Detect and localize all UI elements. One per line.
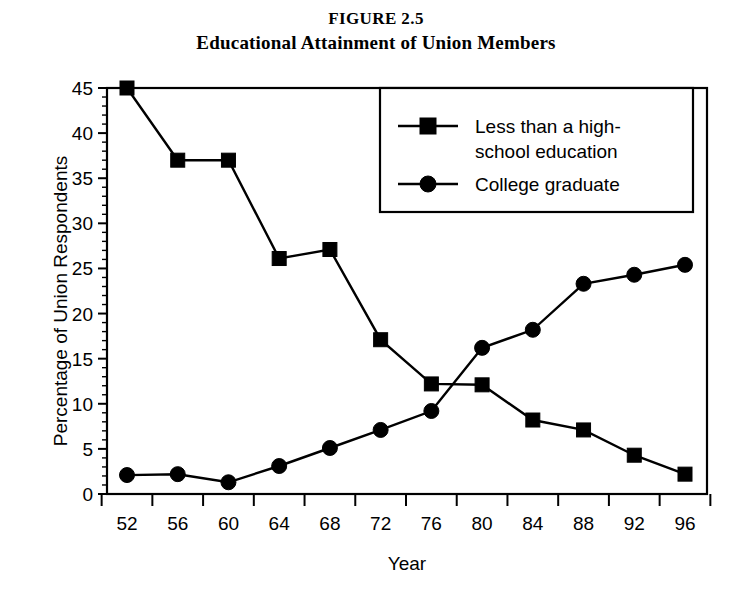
square-marker <box>323 242 337 256</box>
y-axis-tick-label: 10 <box>72 394 93 415</box>
x-axis-label: Year <box>107 553 707 575</box>
y-axis-tick-label: 0 <box>82 484 93 505</box>
square-marker <box>526 413 540 427</box>
circle-marker <box>373 422 388 437</box>
y-axis-tick-label: 5 <box>82 439 93 460</box>
square-marker <box>221 153 235 167</box>
y-axis-tick-label: 25 <box>72 258 93 279</box>
legend-label-continued: school education <box>475 141 618 162</box>
y-axis-label: Percentage of Union Respondents <box>50 136 72 466</box>
y-axis-tick-label: 40 <box>72 123 93 144</box>
x-axis-tick-label: 84 <box>522 513 544 534</box>
square-marker <box>120 81 134 95</box>
circle-marker <box>576 276 591 291</box>
square-marker <box>577 423 591 437</box>
circle-marker <box>221 475 236 490</box>
square-marker <box>475 378 489 392</box>
y-axis-tick-label: 20 <box>72 304 93 325</box>
square-marker <box>424 377 438 391</box>
x-axis-tick-label: 64 <box>269 513 291 534</box>
y-axis-tick-label: 35 <box>72 168 93 189</box>
series-line-2 <box>127 265 685 483</box>
circle-marker <box>322 440 337 455</box>
x-axis-tick-label: 96 <box>674 513 695 534</box>
circle-marker <box>420 176 436 192</box>
circle-marker <box>424 403 439 418</box>
square-marker <box>420 118 436 134</box>
circle-marker <box>678 257 693 272</box>
square-marker <box>171 153 185 167</box>
square-marker <box>627 448 641 462</box>
square-marker <box>272 252 286 266</box>
circle-marker <box>120 468 135 483</box>
circle-marker <box>475 340 490 355</box>
circle-marker <box>627 267 642 282</box>
circle-marker <box>525 322 540 337</box>
x-axis-tick-label: 88 <box>573 513 594 534</box>
y-axis-tick-label: 30 <box>72 213 93 234</box>
x-axis-tick-label: 56 <box>167 513 188 534</box>
y-axis-tick-label: 45 <box>72 78 93 99</box>
x-axis-tick-label: 68 <box>319 513 340 534</box>
circle-marker <box>170 467 185 482</box>
x-axis-tick-label: 72 <box>370 513 391 534</box>
x-axis-tick-label: 52 <box>116 513 137 534</box>
y-axis-tick-label: 15 <box>72 349 93 370</box>
circle-marker <box>272 459 287 474</box>
chart-canvas: 0510152025303540455256606468727680848892… <box>0 0 752 594</box>
figure-root: FIGURE 2.5 Educational Attainment of Uni… <box>0 0 752 594</box>
square-marker <box>678 467 692 481</box>
legend-label: College graduate <box>475 174 620 195</box>
x-axis-tick-label: 60 <box>218 513 239 534</box>
x-axis-tick-label: 92 <box>624 513 645 534</box>
plot-area: 0510152025303540455256606468727680848892… <box>72 78 711 534</box>
legend-label: Less than a high- <box>475 116 621 137</box>
square-marker <box>374 333 388 347</box>
x-axis-tick-label: 76 <box>421 513 442 534</box>
x-axis-tick-label: 80 <box>472 513 493 534</box>
